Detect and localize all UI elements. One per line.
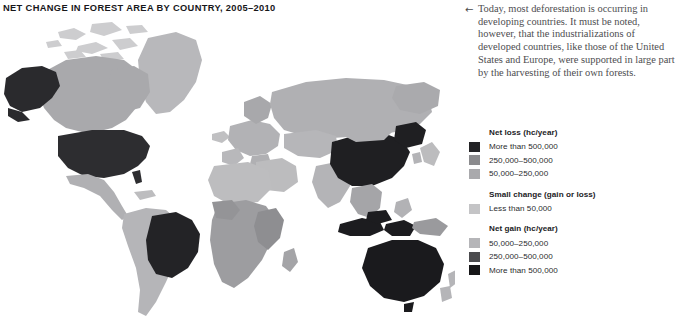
legend-group-net-gain: Net gain (hc/year) 50,000–250,000 250,00… — [465, 224, 678, 277]
legend-swatch — [469, 238, 480, 248]
map-legend: Net loss (hc/year) More than 500,000 250… — [465, 128, 678, 277]
legend-label: More than 500,000 — [489, 266, 558, 275]
legend-item: 250,000–500,000 — [465, 250, 678, 264]
world-map-svg — [0, 16, 455, 321]
legend-swatch — [469, 252, 480, 262]
legend-group-title: Small change (gain or loss) — [489, 190, 678, 199]
legend-item: Less than 50,000 — [465, 202, 678, 216]
legend-item: More than 500,000 — [465, 140, 678, 154]
legend-group-title: Net gain (hc/year) — [489, 224, 678, 233]
legend-item: 50,000–250,000 — [465, 167, 678, 181]
legend-group-net-loss: Net loss (hc/year) More than 500,000 250… — [465, 128, 678, 181]
caption-block: ← Today, most deforestation is occurring… — [465, 3, 678, 79]
legend-label: 50,000–250,000 — [489, 169, 548, 178]
legend-label: 50,000–250,000 — [489, 239, 548, 248]
page-title: NET CHANGE IN FOREST AREA BY COUNTRY, 20… — [3, 3, 276, 13]
legend-swatch — [469, 169, 480, 179]
legend-swatch — [469, 155, 480, 165]
legend-group-small-change: Small change (gain or loss) Less than 50… — [465, 190, 678, 216]
legend-swatch — [469, 204, 480, 214]
legend-item: 50,000–250,000 — [465, 236, 678, 250]
caption-text: Today, most deforestation is occurring i… — [478, 3, 678, 79]
world-map — [0, 16, 455, 321]
legend-swatch — [469, 265, 480, 275]
figure-root: NET CHANGE IN FOREST AREA BY COUNTRY, 20… — [0, 0, 678, 321]
legend-label: 250,000–500,000 — [489, 156, 553, 165]
legend-item: More than 500,000 — [465, 264, 678, 278]
left-arrow-icon: ← — [465, 4, 473, 17]
legend-item: 250,000–500,000 — [465, 154, 678, 168]
legend-label: More than 500,000 — [489, 142, 558, 151]
legend-label: 250,000–500,000 — [489, 252, 553, 261]
legend-label: Less than 50,000 — [489, 204, 552, 213]
legend-swatch — [469, 142, 480, 152]
legend-group-title: Net loss (hc/year) — [489, 128, 678, 137]
right-column: ← Today, most deforestation is occurring… — [460, 0, 678, 321]
